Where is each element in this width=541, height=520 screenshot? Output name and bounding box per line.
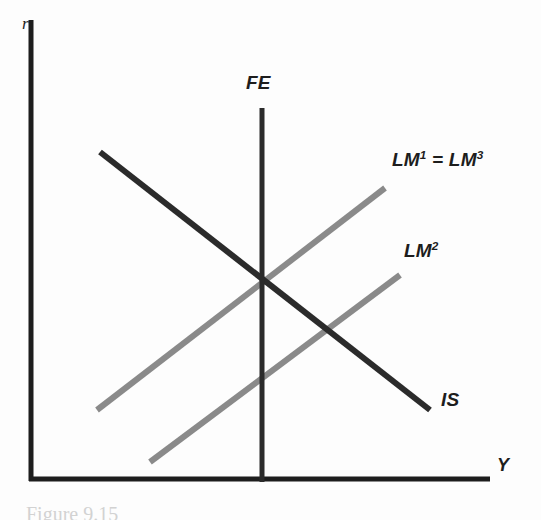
lm2-label-text: LM xyxy=(404,240,432,261)
lm1-label-text: LM xyxy=(392,149,420,170)
lm1-superscript: 1 xyxy=(420,148,427,161)
lm3-superscript: 3 xyxy=(477,148,484,161)
figure-container: r Y FE LM1 = LM3 LM2 IS Figure 9.15 xyxy=(0,0,541,520)
y-axis-label: r xyxy=(22,14,29,34)
lm1-lm3-curve[interactable] xyxy=(97,188,385,410)
lm-equals-sign: = xyxy=(427,149,449,170)
lm2-superscript: 2 xyxy=(432,239,439,252)
is-curve-label: IS xyxy=(441,389,459,411)
lm3-label-text: LM xyxy=(449,149,477,170)
x-axis-label: Y xyxy=(497,455,509,476)
fe-curve-label: FE xyxy=(246,72,271,94)
figure-caption: Figure 9.15 xyxy=(26,503,118,520)
lm1-lm3-curve-label: LM1 = LM3 xyxy=(392,149,483,171)
lm2-curve[interactable] xyxy=(150,275,400,462)
is-label-text: IS xyxy=(441,389,459,410)
lm2-curve-label: LM2 xyxy=(404,240,439,262)
fe-label-text: FE xyxy=(246,72,271,93)
